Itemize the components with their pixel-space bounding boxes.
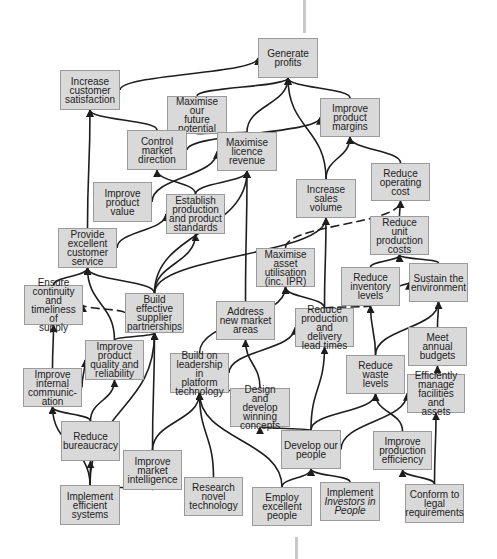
node-label: Improveproductmargins [332,104,368,131]
node-meet-annual-budgets: Meet annualbudgets [408,327,467,366]
node-reduce-operating-cost: Reduceoperatingcost [371,163,430,201]
edge-reduce-production-lead-times-to-increase-sales-volume [325,218,327,308]
node-label: Reducewastelevels [358,361,392,388]
node-build-on-leadership: Build onleadership inplatformtechnology [170,353,229,393]
node-label: Improveproduct value [96,189,149,216]
node-improve-production-efficiency: Improveproductionefficiency [373,431,432,470]
node-reduce-waste-levels: Reducewastelevels [346,355,405,394]
node-label: Reduceproductionand deliverylead times [298,305,351,350]
node-establish-production-standards: Establishproductionand productstandards [166,194,225,234]
node-reduce-production-lead-times: Reduceproductionand deliverylead times [295,308,354,347]
node-address-new-market-areas: Addressnew marketareas [216,301,275,340]
node-label: Addressnew marketareas [220,307,272,334]
node-reduce-unit-production-costs: Reduce unitproductioncosts [370,216,429,255]
node-conform-legal-requirements: Conform tolegalrequirements [405,484,464,523]
node-control-market-direction: Controlmarketdirection [127,130,187,170]
node-label: Reduceinventorylevels [350,273,391,300]
node-improve-internal-communication: Improveinternalcommunic-ation [23,368,82,407]
node-implement-investors-in-people: ImplementInvestors inPeople [320,482,380,521]
node-label: Establishproductionand productstandards [169,196,222,232]
edge-implement-investors-in-people-to-develop-our-people [311,469,350,482]
node-label: Reduceoperatingcost [380,169,422,196]
node-label: Reducebureaucracy [63,432,118,450]
strategy-map-diagram: GenerateprofitsIncreasecustomersatisfact… [0,0,497,559]
node-implement-efficient-systems: Implementefficientsystems [60,485,120,525]
node-label: Researchnoveltechnology [189,483,237,510]
node-label: Improveinternalcommunic-ation [28,370,77,406]
edge-increase-customer-satisfaction-to-generate-profits [120,58,258,90]
edge-sustain-environment-to-reduce-unit-production-costs [400,255,439,263]
node-label: Develop ourpeople [284,441,338,459]
edge-improve-product-margins-to-generate-profits [288,78,350,98]
edge-design-develop-concepts-to-address-new-market-areas [246,340,261,388]
node-label: ImplementInvestors inPeople [324,488,375,515]
edge-reduce-inventory-levels-to-sustain-environment [400,283,409,287]
edge-build-supplier-partnerships-to-establish-production-standards [155,234,196,293]
node-develop-our-people: Develop ourpeople [281,430,341,469]
node-improve-market-intelligence: Improvemarketintelligence [123,450,182,490]
edge-reduce-unit-production-costs-to-reduce-operating-cost [400,201,401,216]
node-research-novel-technology: Researchnoveltechnology [184,477,243,516]
node-label: Maximiselicencerevenue [226,138,268,165]
edge-conform-legal-requirements-to-improve-production-efficiency [403,470,435,484]
node-maximise-licence-revenue: Maximiselicencerevenue [217,132,277,171]
edge-control-market-direction-to-increase-customer-satisfaction [90,110,157,130]
node-improve-product-quality: Improveproductquality andreliability [85,340,144,380]
edge-reduce-operating-cost-to-improve-product-margins [350,137,401,163]
node-build-supplier-partnerships: Buildeffectivesupplierpartnerships [125,293,184,333]
node-label: Controlmarketdirection [138,137,176,164]
node-design-develop-concepts: Designand developwinningconcepts [230,388,290,427]
node-label: Employexcellentpeople [262,493,301,520]
edge-maximise-future-potential-to-generate-profits [197,78,288,96]
edge-establish-production-standards-to-maximise-licence-revenue [196,171,248,194]
edge-reduce-bureaucracy-to-improve-product-quality [91,380,115,421]
edge-develop-our-people-to-reduce-production-lead-times [311,347,325,430]
edge-address-new-market-areas-to-maximise-licence-revenue [246,171,248,301]
node-reduce-inventory-levels: Reduceinventorylevels [341,267,400,306]
node-label: Increasesalesvolume [307,185,345,212]
node-increase-customer-satisfaction: Increasecustomersatisfaction [60,70,120,110]
edge-build-supplier-partnerships-to-provide-customer-service [88,268,155,293]
node-reduce-bureaucracy: Reducebureaucracy [61,421,120,461]
node-label: Maximiseassetutilisation(inc. IPR) [264,250,306,286]
node-generate-profits: Generateprofits [258,38,318,78]
node-label: Sustain theenvironment [411,274,466,292]
node-label: Buildeffectivesupplierpartnerships [127,295,182,331]
node-label: Improvemarketintelligence [127,457,177,484]
node-ensure-continuity-supply: Ensurecontinuity andtimeliness ofsupply [24,285,83,325]
edge-improve-production-efficiency-to-reduce-waste-levels [376,394,403,431]
node-label: Meet annualbudgets [411,333,464,360]
node-provide-customer-service: Provideexcellentcustomerservice [58,228,117,268]
edge-build-supplier-partnerships-to-ensure-continuity-supply [83,305,125,313]
node-label: Provideexcellentcustomerservice [67,230,108,266]
node-maximise-future-potential: Maximise ourfuturepotential [167,96,227,134]
node-label: Improveproductionefficiency [379,437,426,464]
edge-employ-excellent-people-to-develop-our-people [282,469,311,487]
edge-improve-market-intelligence-to-build-on-leadership [153,393,200,450]
node-label: Conform tolegalrequirements [405,490,463,517]
node-increase-sales-volume: Increasesalesvolume [296,179,356,218]
node-label: Reduce unitproductioncosts [373,218,426,254]
node-label: Designand developwinningconcepts [233,385,287,430]
node-maximise-asset-utilisation: Maximiseassetutilisation(inc. IPR) [256,248,315,287]
edge-improve-product-quality-to-build-supplier-partnerships [115,333,155,340]
edge-conform-legal-requirements-to-efficiently-manage-facilities [435,413,437,484]
node-improve-product-margins: Improveproductmargins [320,98,380,137]
node-label: Generateprofits [267,49,309,67]
node-label: Implementefficientsystems [67,492,114,519]
node-employ-excellent-people: Employexcellentpeople [252,487,312,526]
node-label: Build onleadership inplatformtechnology [173,351,226,396]
node-label: Ensurecontinuity andtimeliness ofsupply [27,278,80,332]
edge-provide-customer-service-to-increase-customer-satisfaction [88,110,91,228]
node-label: Increasecustomersatisfaction [65,77,115,104]
node-efficiently-manage-facilities: Efficientlymanagefacilities andassets [407,374,465,413]
node-sustain-environment: Sustain theenvironment [409,263,468,302]
edge-reduce-inventory-levels-to-reduce-unit-production-costs [371,255,400,267]
edge-increase-sales-volume-to-improve-product-margins [326,137,350,179]
edge-establish-production-standards-to-control-market-direction [157,170,196,194]
node-label: Improveproductquality andreliability [90,342,138,378]
node-improve-product-value: Improveproduct value [93,182,152,222]
node-label: Efficientlymanagefacilities andassets [410,371,462,416]
edge-reduce-waste-levels-to-reduce-inventory-levels [371,306,376,355]
edge-reduce-bureaucracy-to-improve-internal-communication [53,407,91,421]
